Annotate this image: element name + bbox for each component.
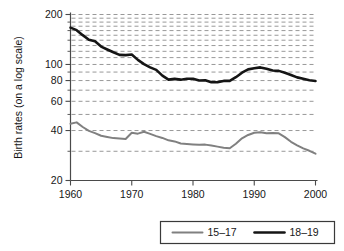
x-tick-label: 2000 <box>304 188 328 200</box>
legend-label-1: 15–17 <box>208 226 237 238</box>
x-tick-label: 1960 <box>59 188 83 200</box>
x-tick-label: 1970 <box>120 188 144 200</box>
chart-figure: 2040608010020019601970198019902000Birth … <box>0 0 344 251</box>
legend-label-2: 18–19 <box>290 226 319 238</box>
series-line-15-17 <box>71 122 316 153</box>
y-tick-label: 80 <box>51 74 63 86</box>
y-tick-label: 200 <box>45 8 63 20</box>
x-tick-label: 1980 <box>181 188 205 200</box>
series-line-18-19 <box>71 28 316 83</box>
y-tick-label: 60 <box>51 95 63 107</box>
y-tick-label: 40 <box>51 124 63 136</box>
y-axis-label: Birth rates (on a log scale) <box>12 36 24 159</box>
x-tick-label: 1990 <box>243 188 267 200</box>
y-tick-label: 100 <box>45 58 63 70</box>
birth-rates-line-chart: 2040608010020019601970198019902000Birth … <box>0 0 344 251</box>
y-tick-label: 20 <box>51 174 63 186</box>
